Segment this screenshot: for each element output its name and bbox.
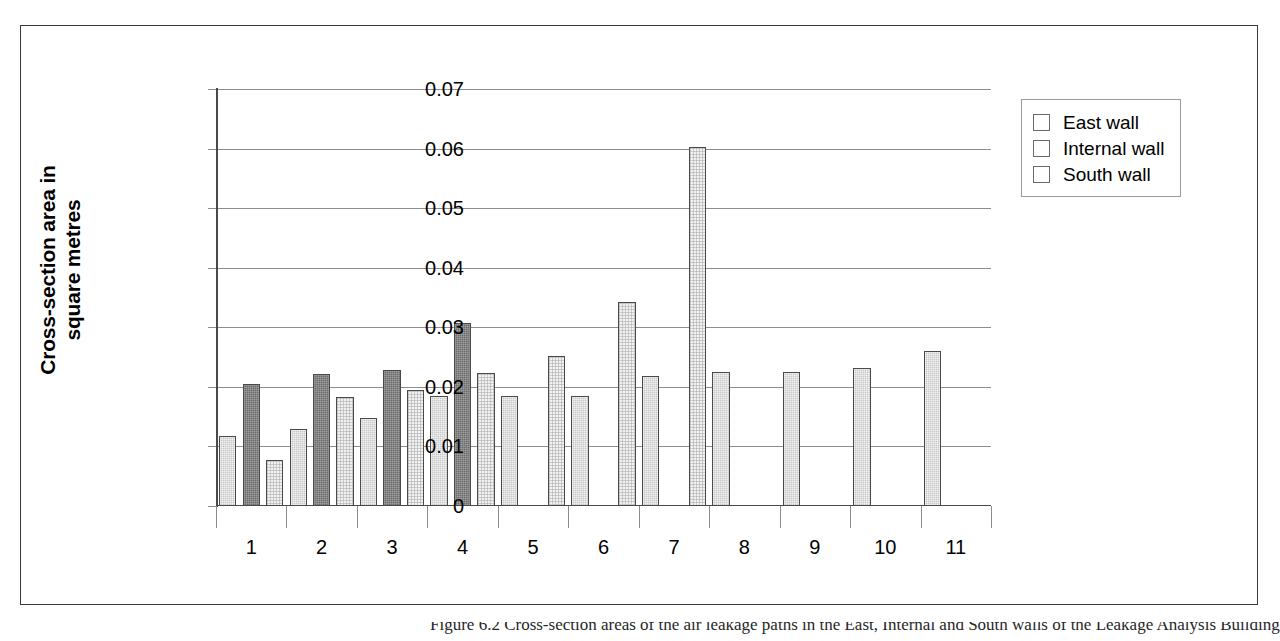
- bar-slot: [709, 89, 732, 506]
- bar-slot: [921, 89, 944, 506]
- y-axis-tick-mark: [208, 268, 216, 269]
- bar-east-wall-7[interactable]: [642, 376, 659, 506]
- bar-slot: [615, 89, 638, 506]
- y-axis-tick-mark: [208, 208, 216, 209]
- x-axis-tick-mark: [850, 506, 851, 528]
- figure-caption-clip: Figure 6.2 Cross-section areas of the ai…: [0, 622, 1280, 641]
- x-axis-tick-mark: [921, 506, 922, 528]
- bar-slot: [944, 89, 967, 506]
- y-axis-tick-mark: [208, 506, 216, 507]
- bar-group: [216, 89, 286, 506]
- bar-internal-wall-2[interactable]: [313, 374, 330, 506]
- x-axis-tick-label-1: 1: [246, 536, 257, 558]
- bar-slot: [498, 89, 521, 506]
- figure-caption: Figure 6.2 Cross-section areas of the ai…: [430, 622, 1280, 635]
- east-wall-swatch: [1033, 114, 1050, 131]
- x-axis-tick-mark: [498, 506, 499, 528]
- bar-south-wall-1[interactable]: [266, 460, 283, 506]
- y-axis-tick-label: 0.06: [344, 139, 464, 159]
- legend-item-internal-wall[interactable]: Internal wall: [1033, 135, 1164, 161]
- bar-slot: [568, 89, 591, 506]
- legend-item-south-wall[interactable]: South wall: [1033, 161, 1164, 187]
- x-axis-tick-label-10: 10: [874, 536, 896, 558]
- bar-group: [921, 89, 991, 506]
- y-axis-tick-mark: [208, 387, 216, 388]
- bar-slot: [286, 89, 309, 506]
- legend-label-south-wall: South wall: [1063, 165, 1151, 184]
- x-axis-tick-label-2: 2: [316, 536, 327, 558]
- bars-layer: [216, 89, 991, 506]
- bar-south-wall-6[interactable]: [618, 302, 635, 506]
- bar-south-wall-4[interactable]: [477, 373, 494, 506]
- x-axis-tick-label-9: 9: [809, 536, 820, 558]
- x-axis-tick-mark: [780, 506, 781, 528]
- x-axis-tick-label-5: 5: [527, 536, 538, 558]
- bar-east-wall-3[interactable]: [360, 418, 377, 506]
- bar-group: [780, 89, 850, 506]
- y-axis-title-line-1: Cross-section area in: [35, 165, 60, 374]
- bar-slot: [803, 89, 826, 506]
- y-axis-tick-mark: [208, 446, 216, 447]
- y-axis-line: [216, 88, 218, 507]
- bar-group: [639, 89, 709, 506]
- bar-east-wall-1[interactable]: [219, 436, 236, 506]
- bar-east-wall-8[interactable]: [712, 372, 729, 506]
- bar-slot: [968, 89, 991, 506]
- x-axis-tick-mark: [709, 506, 710, 528]
- bar-east-wall-6[interactable]: [571, 396, 588, 506]
- bar-east-wall-11[interactable]: [924, 351, 941, 506]
- bar-internal-wall-1[interactable]: [243, 384, 260, 506]
- x-axis-tick-label-3: 3: [387, 536, 398, 558]
- x-axis-tick-label-11: 11: [945, 536, 966, 558]
- y-axis-tick-mark: [208, 149, 216, 150]
- bar-slot: [216, 89, 239, 506]
- bar-slot: [521, 89, 544, 506]
- bar-slot: [827, 89, 850, 506]
- bar-slot: [545, 89, 568, 506]
- x-axis-tick-mark: [427, 506, 428, 528]
- bar-east-wall-10[interactable]: [853, 368, 870, 506]
- bar-slot: [662, 89, 685, 506]
- legend-label-east-wall: East wall: [1063, 113, 1139, 132]
- bar-slot: [263, 89, 286, 506]
- y-axis-title: Cross-section area in square metres: [24, 105, 96, 435]
- y-axis-tick-mark: [208, 327, 216, 328]
- bar-slot: [850, 89, 873, 506]
- legend-item-east-wall[interactable]: East wall: [1033, 109, 1164, 135]
- y-axis-tick-label: 0.05: [344, 198, 464, 218]
- bar-group: [709, 89, 779, 506]
- chart-figure-frame: Cross-section area in square metres 0.07…: [20, 25, 1258, 605]
- south-wall-swatch: [1033, 166, 1050, 183]
- x-axis-tick-mark: [357, 506, 358, 528]
- y-axis-tick-label: 0.01: [344, 436, 464, 456]
- bar-east-wall-2[interactable]: [290, 429, 307, 506]
- plot-area: [216, 89, 991, 506]
- y-axis-tick-label: 0.07: [344, 79, 464, 99]
- bar-south-wall-7[interactable]: [689, 147, 706, 506]
- x-axis-tick-mark: [568, 506, 569, 528]
- bar-south-wall-5[interactable]: [548, 356, 565, 506]
- plot-inner: [216, 89, 991, 506]
- x-axis: 1234567891011: [216, 506, 991, 576]
- bar-slot: [686, 89, 709, 506]
- bar-slot: [756, 89, 779, 506]
- x-axis-tick-mark: [639, 506, 640, 528]
- internal-wall-swatch: [1033, 140, 1050, 157]
- bar-slot: [239, 89, 262, 506]
- y-axis-title-line-2: square metres: [60, 200, 85, 341]
- bar-slot: [780, 89, 803, 506]
- bar-slot: [639, 89, 662, 506]
- bar-slot: [592, 89, 615, 506]
- x-axis-tick-label-8: 8: [739, 536, 750, 558]
- y-axis-tick-label: 0.03: [344, 317, 464, 337]
- bar-group: [498, 89, 568, 506]
- bar-east-wall-5[interactable]: [501, 396, 518, 506]
- y-axis-tick-label: 0.02: [344, 377, 464, 397]
- bar-internal-wall-4[interactable]: [454, 323, 471, 506]
- x-axis-tick-mark: [216, 506, 217, 528]
- bar-east-wall-9[interactable]: [783, 372, 800, 506]
- x-axis-tick-label-6: 6: [598, 536, 609, 558]
- bar-slot: [733, 89, 756, 506]
- bar-group: [568, 89, 638, 506]
- bar-slot: [310, 89, 333, 506]
